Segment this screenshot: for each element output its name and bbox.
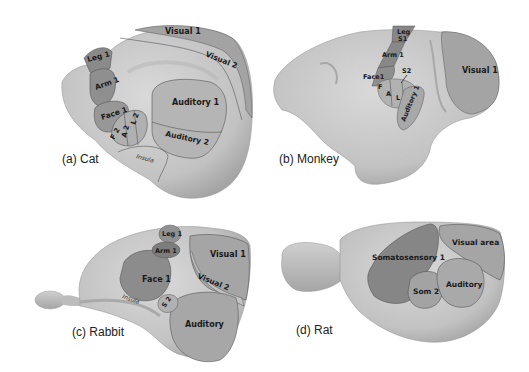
panel-rat: Somatosensory 1 Visual area Som 2 Audito… bbox=[282, 222, 505, 342]
monkey-arm1-label: Arm 1 bbox=[382, 51, 404, 59]
rabbit-auditory-label: Auditory bbox=[185, 320, 225, 329]
monkey-f-label: F bbox=[378, 83, 382, 91]
rabbit-caption: (c) Rabbit bbox=[72, 325, 125, 339]
rat-auditory-label: Auditory bbox=[446, 280, 483, 289]
rat-visual-area-label: Visual area bbox=[452, 238, 499, 247]
monkey-s2-label: S2 bbox=[402, 67, 411, 75]
panel-monkey: Leg S1 Arm 1 Face1 S2 F A L Auditory 1 V… bbox=[274, 26, 499, 184]
cat-auditory1-label: Auditory 1 bbox=[172, 98, 220, 107]
comparative-cortex-diagram: Visual 1 Visual 2 Leg 1 Arm 1 Face 1 Aud… bbox=[0, 0, 529, 372]
rat-olfactory-bulb bbox=[282, 243, 342, 292]
monkey-caption: (b) Monkey bbox=[279, 152, 339, 166]
cat-caption: (a) Cat bbox=[62, 152, 99, 166]
rat-somatosensory1-label: Somatosensory 1 bbox=[372, 253, 445, 262]
monkey-face1-label: Face1 bbox=[363, 73, 385, 81]
panel-cat: Visual 1 Visual 2 Leg 1 Arm 1 Face 1 Aud… bbox=[62, 26, 253, 199]
monkey-visual1-label: Visual 1 bbox=[462, 66, 498, 75]
panel-rabbit: Leg 1 Arm 1 Face 1 Visual 1 Visual 2 S 2… bbox=[35, 225, 251, 362]
rabbit-visual1-label: Visual 1 bbox=[210, 250, 246, 259]
rabbit-face1-label: Face 1 bbox=[142, 275, 171, 284]
rabbit-arm1-label: Arm 1 bbox=[155, 247, 177, 255]
rabbit-olfactory-bulb bbox=[35, 291, 65, 309]
cat-visual1-label: Visual 1 bbox=[165, 27, 201, 36]
rat-caption: (d) Rat bbox=[296, 323, 333, 337]
rabbit-leg1-label: Leg 1 bbox=[162, 230, 182, 238]
monkey-l-label: L bbox=[396, 94, 400, 102]
monkey-s1-label: S1 bbox=[398, 35, 408, 43]
rat-som2-label: Som 2 bbox=[413, 287, 439, 296]
monkey-a-label: A bbox=[386, 90, 391, 98]
